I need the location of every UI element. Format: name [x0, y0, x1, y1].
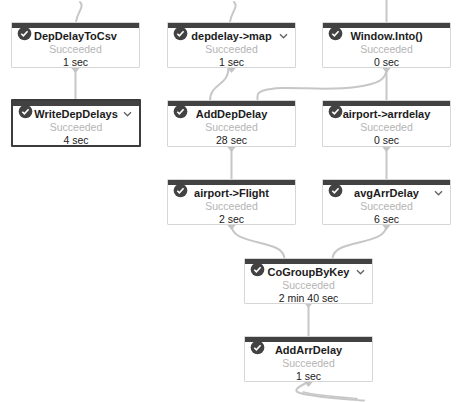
graph-node-depdelay-map[interactable]: depdelay->mapSucceeded1 sec	[167, 22, 296, 68]
graph-node-airport-arrdelay[interactable]: airport->arrdelaySucceeded0 sec	[322, 100, 451, 147]
node-status: Succeeded	[168, 200, 295, 213]
node-title: WriteDepDelays	[13, 108, 139, 121]
node-duration: 4 sec	[13, 134, 139, 147]
edge-avgArrDelay-to-CoGroupByKey	[333, 225, 387, 259]
chevron-down-icon[interactable]	[279, 33, 288, 40]
edge-depdelay-map-to-AddDepDelay	[210, 68, 229, 101]
node-title: CoGroupByKey	[245, 266, 372, 279]
node-title: avgArrDelay	[323, 187, 450, 200]
node-status: Succeeded	[245, 279, 372, 292]
edge-input-to-DepDelayToCsv	[76, 2, 82, 22]
dataflow-job-graph: DepDelayToCsvSucceeded1 secdepdelay->map…	[0, 0, 457, 402]
node-status: Succeeded	[323, 43, 450, 56]
node-duration: 28 sec	[168, 134, 295, 147]
edge-airport-Flight-to-CoGroupByKey	[232, 225, 285, 259]
graph-node-airport-Flight[interactable]: airport->FlightSucceeded2 sec	[167, 179, 296, 225]
node-status: Succeeded	[168, 43, 295, 56]
node-duration: 2 sec	[168, 213, 295, 226]
graph-node-AddArrDelay[interactable]: AddArrDelaySucceeded1 sec	[244, 336, 373, 382]
chevron-down-icon[interactable]	[434, 190, 443, 197]
graph-node-WriteDepDelays[interactable]: WriteDepDelaysSucceeded4 sec	[11, 99, 141, 147]
node-status: Succeeded	[323, 121, 450, 134]
edge-input-to-depdelay-map	[230, 2, 236, 22]
node-title: airport->arrdelay	[323, 108, 450, 121]
node-duration: 0 sec	[323, 134, 450, 147]
graph-node-Window-Into[interactable]: Window.Into()Succeeded0 sec	[322, 22, 451, 68]
graph-node-avgArrDelay[interactable]: avgArrDelaySucceeded6 sec	[322, 179, 451, 225]
node-status: Succeeded	[12, 43, 139, 56]
node-duration: 6 sec	[323, 213, 450, 226]
chevron-down-icon[interactable]	[123, 111, 132, 118]
node-duration: 1 sec	[12, 56, 139, 69]
graph-node-AddDepDelay[interactable]: AddDepDelaySucceeded28 sec	[167, 100, 296, 147]
node-duration: 1 sec	[168, 56, 295, 69]
node-title: airport->Flight	[168, 187, 295, 200]
chevron-down-icon[interactable]	[356, 269, 365, 276]
node-title: AddDepDelay	[168, 108, 295, 121]
node-title: depdelay->map	[168, 30, 295, 43]
node-status: Succeeded	[323, 200, 450, 213]
node-title: DepDelayToCsv	[12, 30, 139, 43]
edge-Window-Into-to-AddDepDelay	[257, 68, 386, 101]
node-title: AddArrDelay	[245, 344, 372, 357]
node-status: Succeeded	[168, 121, 295, 134]
node-status: Succeeded	[245, 357, 372, 370]
node-duration: 1 sec	[245, 370, 372, 383]
node-status: Succeeded	[13, 121, 139, 134]
graph-node-CoGroupByKey[interactable]: CoGroupByKeySucceeded2 min 40 sec	[244, 258, 373, 304]
node-title: Window.Into()	[323, 30, 450, 43]
graph-node-DepDelayToCsv[interactable]: DepDelayToCsvSucceeded1 sec	[11, 22, 140, 68]
node-duration: 0 sec	[323, 56, 450, 69]
node-duration: 2 min 40 sec	[245, 292, 372, 305]
